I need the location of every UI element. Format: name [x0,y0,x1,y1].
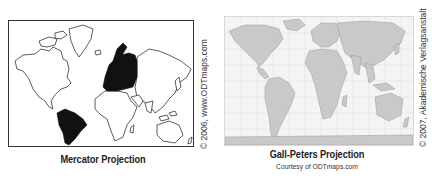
mercator-world-map-graphic [9,21,193,146]
gall-peters-world-map-graphic [225,17,413,145]
mercator-title: Mercator Projection [28,153,178,165]
gall-peters-title: Gall-Peters Projection [242,148,392,160]
mercator-credit: © 2006, www.ODTmaps.com [199,19,209,149]
mercator-map [8,20,194,147]
gall-peters-subtitle: Courtesy of ODTmaps.com [268,162,367,171]
gall-peters-map [224,16,414,146]
gall-peters-credit: © 2007, Akademische Verlagsanstalt [418,0,428,147]
